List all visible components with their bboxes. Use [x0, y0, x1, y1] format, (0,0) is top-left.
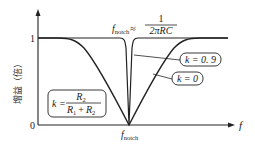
x-axis-arrow-icon — [228, 123, 235, 128]
formula-numerator: 1 — [159, 13, 164, 24]
k-lhs: k = — [52, 98, 66, 109]
label-k0: k = 0 — [177, 73, 198, 84]
k-definition-formula: k = R2 R1+R2 — [48, 90, 106, 117]
notch-frequency-formula: fnotch≈ 1 2πRC — [112, 13, 177, 36]
x-tick-fnotch: fnotch — [121, 129, 139, 141]
fnotch-sub: notch — [124, 134, 139, 141]
y-tick-1: 1 — [30, 33, 35, 44]
notch-filter-diagram: 1 0 增益（倍） f fnotch fnotch≈ 1 2πRC k = 0.… — [0, 0, 255, 146]
k-denominator: R1+R2 — [66, 104, 95, 116]
formula-lhs: fnotch≈ — [112, 23, 136, 35]
y-axis-label: 增益（倍） — [12, 59, 23, 104]
leader-k09 — [134, 55, 180, 60]
y-tick-0: 0 — [30, 120, 35, 131]
label-k09: k = 0. 9 — [185, 54, 216, 65]
formula-denominator: 2πRC — [150, 25, 173, 36]
x-axis-label: f — [239, 119, 244, 131]
y-axis-arrow-icon — [36, 9, 41, 16]
